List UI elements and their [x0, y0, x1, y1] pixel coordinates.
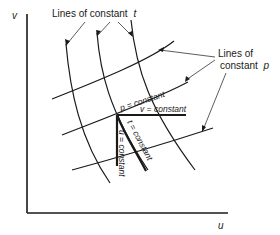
constant-p-callout: Lines of constant p	[158, 47, 270, 132]
constant-t-line-1	[66, 44, 110, 183]
leader-p-2	[186, 60, 215, 80]
leader-p-3	[203, 73, 226, 130]
constant-t-callout-label: Lines of constant t	[52, 8, 137, 19]
v-constant-label: v = constant	[140, 104, 187, 114]
u-axis-label: u	[218, 220, 224, 231]
constant-t-callout: Lines of constant t	[52, 8, 137, 46]
v-axis-label: v	[12, 10, 18, 21]
constant-p-callout-label-line2: constant p	[220, 60, 270, 71]
leader-t-2	[98, 22, 110, 35]
arrowhead-icon	[185, 76, 190, 82]
u-constant-label: u = constant	[117, 130, 127, 177]
leader-t-1	[67, 22, 85, 44]
leader-p-1	[160, 50, 215, 57]
thermodynamic-state-diagram: v u p = constant v = constant t = consta…	[0, 0, 280, 235]
constant-p-callout-label-line1: Lines of	[218, 48, 253, 59]
